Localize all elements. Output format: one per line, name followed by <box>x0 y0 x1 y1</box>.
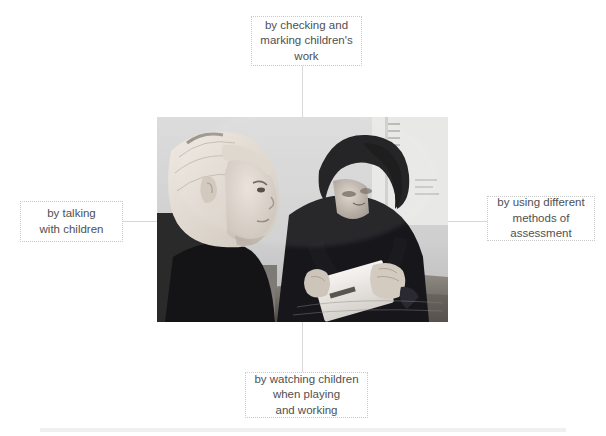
label-box-bottom: by watching children when playing and wo… <box>245 372 368 418</box>
assessment-methods-diagram: by checking and marking children's work … <box>0 0 606 436</box>
label-box-top: by checking and marking children's work <box>251 16 362 66</box>
label-text-top: by checking and marking children's work <box>260 18 352 65</box>
connector-line-top <box>302 66 303 117</box>
label-text-right: by using different methods of assessment <box>497 195 584 242</box>
label-box-left: by talking with children <box>20 201 123 242</box>
connector-line-left <box>123 221 157 222</box>
center-photograph <box>157 117 448 322</box>
connector-line-bottom <box>302 322 303 372</box>
bottom-divider <box>40 428 566 432</box>
connector-line-right <box>448 221 487 222</box>
label-text-left: by talking with children <box>40 206 104 237</box>
label-box-right: by using different methods of assessment <box>487 196 595 241</box>
label-text-bottom: by watching children when playing and wo… <box>254 372 358 419</box>
